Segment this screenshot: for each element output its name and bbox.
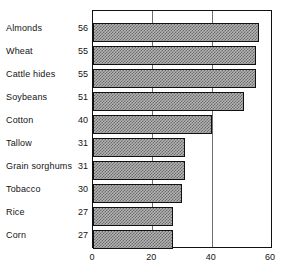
value-label: 27 [68,230,88,240]
plot-area [92,10,272,248]
value-label: 55 [68,69,88,79]
value-label: 51 [68,92,88,102]
value-label: 40 [68,115,88,125]
value-label: 31 [68,161,88,171]
value-label: 56 [68,23,88,33]
value-label: 30 [68,184,88,194]
value-label: 27 [68,207,88,217]
category-label: Soybeans [6,92,68,102]
xtick-label: 40 [199,252,223,262]
category-label: Tallow [6,138,68,148]
category-label: Grain sorghums [6,161,68,171]
value-label: 31 [68,138,88,148]
category-label: Cotton [6,115,68,125]
category-label: Wheat [6,46,68,56]
bar [93,69,256,88]
bar [93,207,173,226]
category-label: Almonds [6,23,68,33]
category-label: Corn [6,230,68,240]
category-label: Tobacco [6,184,68,194]
category-label: Cattle hides [6,69,68,79]
category-label: Rice [6,207,68,217]
bar-chart: Almonds Wheat Cattle hides Soybeans Cott… [0,0,288,270]
bar [93,230,173,249]
bar [93,184,182,203]
xtick-label: 0 [80,252,104,262]
value-label: 55 [68,46,88,56]
bar [93,46,256,65]
bar [93,161,185,180]
xtick-label: 60 [258,252,282,262]
bar [93,92,244,111]
bar [93,138,185,157]
bar [93,115,212,134]
bar [93,23,259,42]
xtick-label: 20 [139,252,163,262]
